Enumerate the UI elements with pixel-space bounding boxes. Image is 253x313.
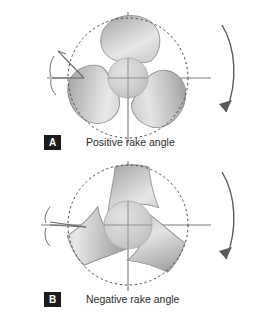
panel-b-rotation-arrow — [219, 172, 234, 259]
panel-b-caption-label: Negative rake angle — [86, 292, 179, 307]
panel-b-tag: B — [44, 292, 61, 307]
panel-a-tag: A — [44, 135, 61, 150]
panel-b-caption-row: B Negative rake angle — [0, 289, 253, 309]
rake-angle-figure: A Positive rake angle — [0, 0, 253, 313]
panel-a-caption-row: A Positive rake angle — [0, 132, 253, 152]
panel-b: B Negative rake angle — [0, 157, 253, 313]
panel-a-impeller — [58, 16, 196, 137]
panel-a: A Positive rake angle — [0, 0, 253, 156]
panel-a-rotation-arrow — [219, 25, 234, 112]
panel-a-caption-label: Positive rake angle — [86, 135, 175, 150]
panel-b-impeller — [60, 165, 190, 282]
